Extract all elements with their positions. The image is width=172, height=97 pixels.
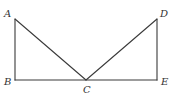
label-b: B xyxy=(3,76,11,87)
label-d: D xyxy=(159,8,168,19)
segment-cd xyxy=(86,19,157,80)
label-a: A xyxy=(3,8,11,19)
vertex-labels: ABCDE xyxy=(3,8,169,95)
label-e: E xyxy=(160,76,169,87)
segment-ac xyxy=(15,19,86,80)
label-c: C xyxy=(83,84,91,95)
segments xyxy=(15,19,157,80)
geometry-diagram: ABCDE xyxy=(0,0,172,97)
